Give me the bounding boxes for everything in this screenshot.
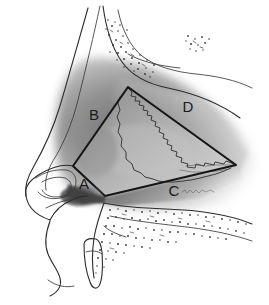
nasal-septum-figure: A B C D: [0, 0, 269, 305]
illustration-canvas: A B C D: [0, 0, 269, 305]
region-label-a: A: [79, 175, 89, 192]
maxillary-bone-region: [93, 203, 253, 278]
upper-lip-profile: [46, 221, 74, 296]
region-label-c: C: [169, 182, 180, 199]
region-label-d: D: [183, 98, 194, 115]
region-label-b: B: [89, 106, 99, 123]
